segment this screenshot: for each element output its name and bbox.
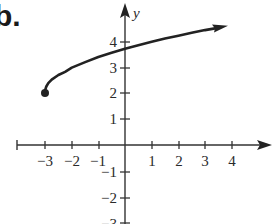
y-tick-label: 4: [110, 34, 118, 50]
x-tick-label: 2: [175, 153, 183, 169]
x-tick-labels: −3 −2 −1 1 2 3 4: [37, 153, 236, 169]
part-label: b.: [0, 0, 21, 32]
x-tick-label: 4: [228, 153, 236, 169]
y-tick-label: 1: [110, 111, 118, 127]
y-tick-label: −3: [101, 216, 117, 224]
y-tick-label: 2: [110, 85, 118, 101]
x-tick-label: 3: [201, 153, 209, 169]
y-tick-label: −1: [101, 164, 117, 180]
x-axis: [17, 140, 272, 150]
graph-figure: b. −3 −2 −1 1 2 3 4 y: [0, 0, 278, 224]
x-tick-label: 1: [148, 153, 156, 169]
x-tick-label: −3: [37, 153, 53, 169]
y-axis-label: y: [131, 5, 140, 21]
y-axis: [120, 3, 130, 224]
y-tick-label: 3: [110, 60, 118, 76]
y-tick-labels: 4 3 2 1 −1 −2 −3: [101, 34, 117, 224]
x-tick-label: −2: [64, 153, 80, 169]
start-point-closed-dot: [41, 89, 49, 97]
function-curve: [41, 25, 228, 98]
y-tick-label: −2: [101, 190, 117, 206]
